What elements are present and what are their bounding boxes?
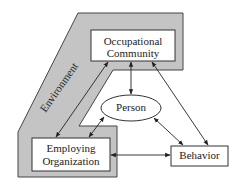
- node-person: Person: [101, 95, 161, 121]
- employing-line2: Organization: [42, 155, 100, 167]
- node-behavior: Behavior: [171, 146, 228, 166]
- person-label: Person: [116, 101, 146, 113]
- occupational-line2: Community: [107, 47, 160, 59]
- arrow-occupational-behavior: [152, 62, 208, 145]
- diagram-canvas: Environment Occupational Community Perso…: [0, 0, 241, 189]
- node-occupational-community: Occupational Community: [91, 30, 175, 61]
- employing-line1: Employing: [47, 142, 96, 154]
- node-employing-organization: Employing Organization: [32, 138, 110, 171]
- occupational-line1: Occupational: [104, 35, 163, 47]
- behavior-label: Behavior: [179, 149, 220, 161]
- arrow-person-behavior: [154, 118, 183, 145]
